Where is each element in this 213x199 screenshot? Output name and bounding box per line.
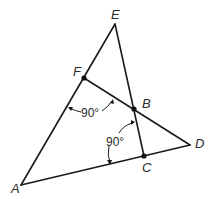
geometry-diagram: E F B D C A 90° 90° [0, 0, 213, 199]
segment-FD [84, 78, 190, 145]
label-E: E [111, 7, 120, 22]
segment-AE [21, 24, 115, 185]
angle-arc-lower-top [119, 123, 132, 133]
label-D: D [195, 136, 204, 151]
label-F: F [73, 64, 82, 79]
angle-label-lower: 90° [106, 135, 124, 149]
label-B: B [142, 96, 151, 111]
angle-label-upper: 90° [81, 106, 99, 120]
point-C [141, 153, 146, 158]
label-C: C [142, 160, 152, 175]
point-B [131, 106, 136, 111]
arrowhead-lower-top [131, 120, 135, 125]
label-A: A [10, 181, 20, 196]
segment-AD [21, 145, 190, 185]
point-F [81, 75, 86, 80]
